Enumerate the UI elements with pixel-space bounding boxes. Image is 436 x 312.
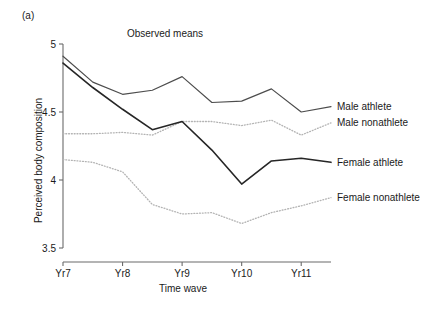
x-tick-label: Yr7 [55, 268, 71, 279]
legend-label: Male nonathlete [337, 117, 409, 128]
y-tick-label: 3.5 [42, 243, 56, 254]
line-chart-plot: 3.544.55 Yr7Yr8Yr9Yr10Yr11 Male athleteM… [0, 0, 436, 312]
y-tick-label: 5 [50, 39, 56, 50]
series-line [63, 120, 331, 135]
x-axis: Yr7Yr8Yr9Yr10Yr11 [55, 262, 331, 279]
x-tick-label: Yr11 [291, 268, 312, 279]
series-line [63, 160, 331, 224]
legend-label: Female athlete [337, 157, 404, 168]
series-line [63, 56, 331, 112]
legend-label: Female nonathlete [337, 192, 420, 203]
x-tick-label: Yr9 [174, 268, 190, 279]
legend: Male athleteMale nonathleteFemale athlet… [337, 101, 420, 203]
legend-label: Male athlete [337, 101, 392, 112]
x-tick-label: Yr8 [115, 268, 131, 279]
figure-panel: (a) Observed means Perceived body compos… [0, 0, 436, 312]
y-tick-label: 4.5 [42, 107, 56, 118]
y-tick-label: 4 [50, 175, 56, 186]
series-line [63, 63, 331, 184]
x-tick-label: Yr10 [231, 268, 253, 279]
series-lines [63, 56, 331, 223]
y-axis: 3.544.55 [42, 39, 63, 254]
